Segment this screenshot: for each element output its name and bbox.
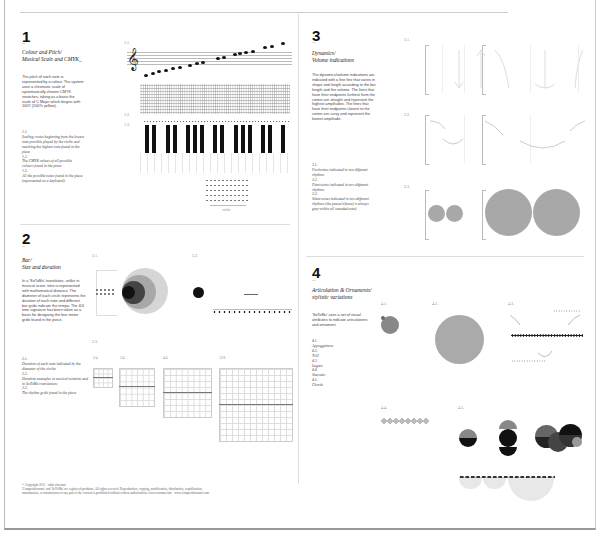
figure-label: 2.2.: [192, 253, 198, 258]
legato-curves: [508, 307, 588, 367]
pianissimo-curves: [425, 115, 590, 165]
figure-label: 4.1.: [381, 301, 387, 306]
black-key: [268, 125, 272, 153]
caption-text: Chords: [312, 383, 372, 388]
caption-text: Duration examples in musical notation an…: [22, 377, 90, 387]
section-dash: –: [22, 40, 25, 46]
figure-label: 4.2.: [432, 301, 438, 306]
section-title: Colour and Pitch/ Musical Scale and CMYK…: [22, 49, 102, 63]
note: [238, 52, 242, 55]
note: [164, 69, 168, 72]
keyboard: [140, 125, 290, 173]
rhythm-grid: [119, 368, 155, 407]
grid-bar-line: [119, 386, 155, 387]
note: [251, 50, 255, 53]
black-key: [248, 125, 252, 153]
caption-text: Silent notes indicated in two different …: [312, 197, 376, 212]
legato-top-dots: [553, 310, 581, 312]
black-key: [186, 125, 190, 153]
note: [222, 56, 226, 59]
section-captions: 2.1. Duration of each note indicated by …: [22, 357, 90, 396]
black-key: [213, 125, 217, 153]
figure-label: 3.3.: [404, 184, 410, 189]
title-line: stylistic variations: [312, 294, 402, 301]
time-signature: 12/8: [219, 356, 225, 360]
title-line: Musical Scale and CMYK_: [22, 56, 102, 63]
staff-line: [127, 52, 292, 53]
figure-label: 2.1.: [92, 253, 98, 258]
caption-text: All the possible notes found in the piec…: [22, 174, 84, 184]
black-key: [234, 125, 238, 153]
silent-note-circle: [446, 205, 463, 222]
time-signature: 4/4: [163, 356, 167, 360]
whole-note-circle: [193, 287, 204, 298]
time-signature: 2/4: [93, 356, 97, 360]
figure-label: 4.5.: [458, 405, 464, 410]
fortissimo-lines: [425, 40, 590, 100]
divider-1-2: [20, 224, 290, 225]
figure-label: 3.1.: [404, 37, 410, 42]
note: [151, 72, 155, 75]
figure-label: 1.1.: [124, 40, 130, 45]
divider-3-4: [306, 256, 584, 257]
section-title: Bar/ Size and duration: [22, 257, 102, 271]
grid-bar-line: [163, 392, 212, 393]
duration-bar: [244, 294, 258, 295]
legato-note-row: [511, 334, 583, 337]
black-key: [281, 125, 285, 153]
staff-line: [127, 55, 292, 56]
figure-label: 3.2.: [404, 112, 410, 117]
caption-text: Fortissimo indicated in two different rh…: [312, 168, 376, 178]
black-key: [220, 125, 224, 153]
staccato-circles: [381, 418, 429, 424]
note: [188, 64, 192, 67]
note: [157, 70, 161, 73]
black-key: [200, 125, 204, 153]
silent-note-circle: [485, 189, 532, 236]
section-dash: –: [22, 243, 25, 249]
black-key: [173, 125, 177, 153]
legato-bottom-dots: [511, 360, 547, 362]
grace-note-dot: [381, 316, 385, 320]
note: [216, 57, 220, 60]
figure-sublabel: violin: [222, 208, 230, 212]
note: [201, 61, 205, 64]
silent-note-circle: [533, 189, 580, 236]
caption-text: The CMYK values of all possible colours …: [22, 159, 84, 169]
section-dash: –: [312, 277, 315, 283]
section-body: In a 'SoToMu' translation, unlike in mus…: [22, 279, 86, 323]
section-captions: 3.1. Fortissimo indicated in two differe…: [312, 163, 376, 212]
staff-line: [127, 61, 292, 62]
caption-text: The rhythm grids found in the piece: [22, 391, 90, 396]
rhythm-grid: [163, 368, 212, 418]
note: [263, 46, 267, 49]
beam-line: [213, 309, 292, 310]
caption-text: Duration of each note indicated by the d…: [22, 362, 90, 372]
section-dash: –: [312, 39, 315, 45]
chord-1: [459, 429, 477, 447]
title-line: Size and duration: [22, 264, 102, 271]
note: [144, 74, 148, 77]
note-markers: [143, 120, 289, 123]
footer: © Copyright 2011 · rabia chaviani 'Compo…: [22, 483, 282, 496]
figure-label: 4.3.: [508, 301, 514, 306]
time-signature: 3/4: [120, 356, 124, 360]
staff-line: [127, 64, 292, 65]
note: [171, 67, 175, 70]
title-line: Volume indications: [312, 57, 402, 64]
caption-text: Pianissimo indicated in two different rh…: [312, 183, 376, 193]
grid-bar-line: [93, 377, 113, 378]
title-line: Dynamics/: [312, 50, 402, 57]
black-key: [261, 125, 265, 153]
black-key: [166, 125, 170, 153]
treble-clef-icon: 𝄞: [127, 46, 139, 70]
section-captions: 4.1. Appoggiatura 4.2. Trill 4.3. Legato…: [312, 339, 372, 388]
title-line: Bar/: [22, 257, 102, 264]
section-title: Dynamics/ Volume indications: [312, 50, 402, 64]
footer-line: transmission, or transmission of any par…: [22, 491, 282, 495]
grid-bar-line: [219, 404, 293, 405]
note: [178, 66, 182, 69]
section-captions: 1.1. Scaling: notes beginning from the l…: [22, 130, 84, 184]
note: [244, 51, 248, 54]
section-body: 'SoToMu' uses a set of visual attributes…: [312, 313, 372, 328]
